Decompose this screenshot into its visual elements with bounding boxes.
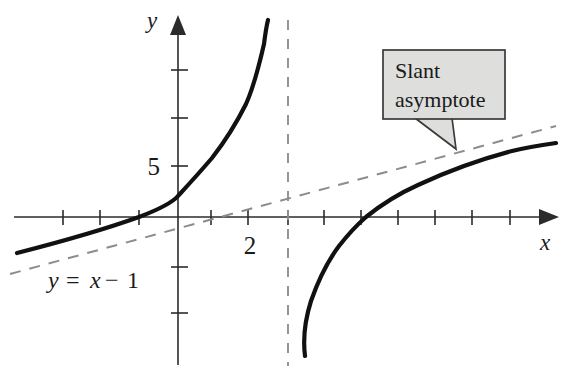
equation-one-term: 1 xyxy=(127,267,139,293)
equation-y-term: y xyxy=(46,267,59,293)
slant-asymptote-equation-label: y = x − 1 xyxy=(46,267,139,293)
callout-label-line1: Slant xyxy=(395,58,440,83)
y-axis-arrowhead xyxy=(170,15,186,35)
rational-function-graph: y x 5 2 Slant asymptote y = x − 1 xyxy=(0,0,571,369)
curve-right-branch xyxy=(304,143,556,356)
callout-label-line2: asymptote xyxy=(395,87,485,112)
equation-x-term: x xyxy=(89,267,101,293)
curve-left-branch xyxy=(17,20,268,253)
slant-asymptote-dashed xyxy=(10,126,556,274)
equation-x-glyph: x xyxy=(89,267,101,293)
equation-equals-sign: = xyxy=(66,267,80,293)
y-axis-label: y xyxy=(145,8,158,33)
equation-minus-sign: − xyxy=(105,267,119,293)
callout-tail xyxy=(415,118,456,149)
x-axis-label: x xyxy=(539,230,551,255)
x-tick-label-2: 2 xyxy=(244,232,257,259)
x-axis-arrowhead xyxy=(539,209,559,225)
graph-figure: y x 5 2 Slant asymptote y = x − 1 xyxy=(0,0,571,369)
y-tick-label-5: 5 xyxy=(148,153,161,180)
equation-y-glyph: y xyxy=(46,267,59,293)
